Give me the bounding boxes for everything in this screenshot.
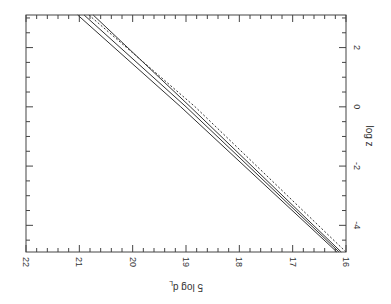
y-axis-title: 5 log dL	[169, 280, 203, 293]
y-tick-label: 18	[234, 257, 244, 267]
plot-lines	[78, 15, 346, 252]
series-line-solid-2	[84, 15, 339, 252]
axis-tick-labels: 16171819202122-4-202	[21, 45, 362, 267]
svg-text:5 log dL: 5 log dL	[169, 280, 203, 293]
y-axis-title-main: 5 log d	[173, 282, 203, 293]
x-tick-label: -4	[352, 221, 362, 229]
x-tick-label: 2	[352, 45, 362, 50]
y-tick-label: 22	[21, 257, 31, 267]
y-tick-label: 21	[74, 257, 84, 267]
x-axis-title: log z	[364, 125, 375, 146]
chart-figure: 16171819202122-4-202 log z 5 log dL	[0, 0, 391, 304]
y-tick-label: 17	[288, 257, 298, 267]
x-tick-label: 0	[352, 104, 362, 109]
x-tick-label: -2	[352, 162, 362, 170]
series-line-solid-3	[93, 15, 341, 252]
y-tick-label: 20	[128, 257, 138, 267]
y-tick-label: 16	[341, 257, 351, 267]
series-line-solid-1	[78, 15, 337, 252]
y-tick-label: 19	[181, 257, 191, 267]
y-axis-title-subscript: L	[169, 280, 173, 287]
